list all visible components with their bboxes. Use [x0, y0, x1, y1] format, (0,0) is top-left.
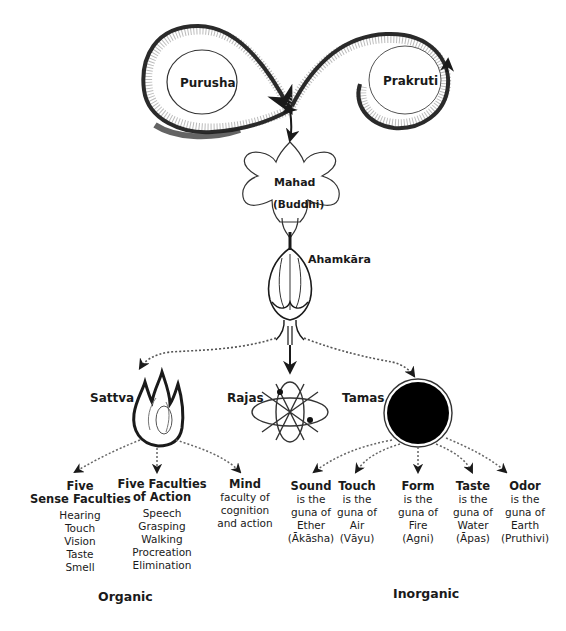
- element-odor: Odor is the guna of Earth (Pruthivi): [496, 480, 554, 545]
- rajas-label: Rajas: [227, 392, 264, 404]
- element-sound: Sound is the guna of Ether (Ākāsha): [287, 480, 335, 545]
- mind-line: and action: [214, 517, 276, 530]
- prakruti-label: Prakruti: [383, 75, 438, 87]
- element-line: (Āpas): [451, 532, 495, 545]
- arrow-to-mahad-icon: [290, 110, 292, 140]
- element-line: is the: [336, 493, 378, 506]
- sattva-flame-icon: [134, 372, 183, 446]
- element-line: Earth: [496, 519, 554, 532]
- element-form: Form is the guna of Fire (Agni): [396, 480, 440, 545]
- buddhi-label: (Buddhi): [273, 199, 324, 210]
- action-item: Speech: [112, 507, 212, 520]
- arrow-to-tamas-icon: [304, 338, 414, 376]
- element-line: is the: [287, 493, 335, 506]
- mind: Mind faculty of cognition and action: [214, 478, 276, 530]
- inorganic-label: Inorganic: [393, 586, 459, 601]
- element-line: Fire: [396, 519, 440, 532]
- mind-title: Mind: [214, 478, 276, 491]
- element-line: is the: [451, 493, 495, 506]
- element-title: Form: [396, 480, 440, 493]
- element-line: guna of: [396, 506, 440, 519]
- five-faculties-of-action: Five Faculties of Action Speech Grasping…: [112, 478, 212, 572]
- mahad-label: Mahad: [274, 177, 316, 188]
- element-line: (Pruthivi): [496, 532, 554, 545]
- element-taste: Taste is the guna of Water (Āpas): [451, 480, 495, 545]
- element-line: is the: [496, 493, 554, 506]
- action-item: Grasping: [112, 520, 212, 533]
- purusha-label: Purusha: [180, 77, 236, 89]
- organic-label: Organic: [98, 589, 153, 604]
- element-title: Sound: [287, 480, 335, 493]
- mind-line: cognition: [214, 504, 276, 517]
- element-title: Odor: [496, 480, 554, 493]
- action-item: Elimination: [112, 559, 212, 572]
- mind-line: faculty of: [214, 491, 276, 504]
- arrow-to-sattva-icon: [140, 338, 276, 368]
- tamas-circle-icon: [384, 379, 452, 447]
- element-line: guna of: [287, 506, 335, 519]
- action-item: Procreation: [112, 546, 212, 559]
- element-line: (Vāyu): [336, 532, 378, 545]
- ahamkara-bud-icon: [269, 248, 312, 345]
- sattva-label: Sattva: [90, 392, 134, 404]
- five-actions-title-2: of Action: [112, 491, 212, 504]
- element-line: Water: [451, 519, 495, 532]
- element-line: guna of: [451, 506, 495, 519]
- element-line: guna of: [336, 506, 378, 519]
- action-item: Walking: [112, 533, 212, 546]
- element-title: Taste: [451, 480, 495, 493]
- element-line: Air: [336, 519, 378, 532]
- element-line: guna of: [496, 506, 554, 519]
- tamas-label: Tamas: [342, 392, 384, 404]
- element-line: is the: [396, 493, 440, 506]
- element-line: (Agni): [396, 532, 440, 545]
- element-line: (Ākāsha): [287, 532, 335, 545]
- element-line: Ether: [287, 519, 335, 532]
- element-title: Touch: [336, 480, 378, 493]
- element-touch: Touch is the guna of Air (Vāyu): [336, 480, 378, 545]
- ahamkara-label: Ahamkāra: [308, 254, 371, 265]
